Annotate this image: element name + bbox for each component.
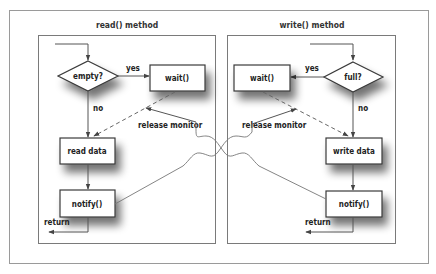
read-yes-label: yes [126,64,140,73]
write-yes-label: yes [305,64,319,73]
write-return-label: return [305,218,331,227]
read-wait-label: wait() [165,74,189,83]
read-data-label: read data [67,147,106,156]
read-release-monitor-arrow [146,108,196,122]
outer-frame [10,11,429,264]
write-entry-arrow [310,44,353,60]
write-notify-label: notify() [339,200,369,209]
read-entry-arrow [55,44,88,60]
write-no-label: no [358,104,368,113]
read-write-monitor-diagram: read() method write() method empty? yes … [0,0,436,274]
read-no-label: no [93,104,103,113]
write-decision-label: full? [344,73,361,82]
write-wait-label: wait() [250,74,274,83]
read-decision-label: empty? [73,72,103,81]
read-return-label: return [44,218,70,227]
read-panel-title: read() method [96,20,158,30]
read-release-monitor-label: release monitor [138,121,203,130]
read-notify-label: notify() [72,200,102,209]
write-panel-title: write() method [280,20,345,30]
write-data-label: write data [333,147,375,156]
read-notify-to-write-release-connector [115,124,252,204]
